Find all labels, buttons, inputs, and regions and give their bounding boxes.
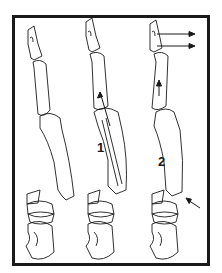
pressure-arrow [186, 198, 200, 208]
label-1: 1 [97, 141, 104, 154]
bone-diagram [0, 0, 222, 273]
panel-c-bones [150, 20, 183, 259]
label-2: 2 [158, 155, 165, 168]
lateral-arrows [157, 32, 195, 49]
panel-a-bones [26, 26, 74, 259]
axial-arrow-2 [157, 80, 162, 96]
panel-b-bones [86, 18, 127, 259]
